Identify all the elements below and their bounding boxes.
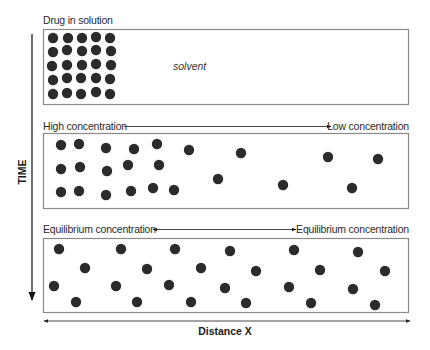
distance-axis-label: Distance X	[198, 325, 252, 337]
low-concentration-label: Low concentration	[327, 120, 409, 132]
molecule-dot	[62, 60, 72, 70]
molecule-dot	[62, 88, 72, 98]
panel-equilibrium: Equilibrium concentration Equilibrium co…	[43, 223, 409, 313]
molecule-dot	[48, 89, 58, 99]
molecule-dot	[91, 59, 101, 69]
panel-drug-in-solution: Drug in solution solvent	[43, 14, 409, 105]
molecule-dot	[154, 160, 164, 170]
molecule-dot	[236, 148, 246, 158]
molecule-dot	[315, 265, 325, 275]
molecule-dot	[63, 33, 73, 43]
molecule-dot	[62, 73, 72, 83]
molecule-dot	[105, 74, 115, 84]
molecule-dot	[91, 32, 101, 42]
molecule-dot	[71, 297, 81, 307]
molecule-dot	[164, 280, 174, 290]
equilibrium-left-label: Equilibrium concentration	[43, 223, 156, 235]
panel-concentration-gradient: High concentration Low concentration	[43, 120, 409, 209]
molecule-dot	[123, 160, 133, 170]
distance-axis: Distance X	[44, 321, 410, 337]
molecule-dot	[74, 139, 84, 149]
diffusion-diagram: TIME Drug in solution solvent High conce…	[0, 0, 430, 350]
molecule-dot	[251, 266, 261, 276]
equilibrium-right-label: Equilibrium concentration	[296, 223, 409, 235]
molecule-dot	[241, 298, 251, 308]
molecule-dot	[101, 143, 111, 153]
molecule-dot	[47, 61, 57, 71]
solvent-label: solvent	[173, 60, 207, 72]
molecule-dot	[48, 47, 58, 57]
molecule-dot	[91, 87, 101, 97]
molecule-dot	[129, 144, 139, 154]
panel-2-box	[44, 134, 409, 209]
molecule-dot	[186, 297, 196, 307]
molecule-dot	[220, 283, 230, 293]
molecule-dot	[77, 46, 87, 56]
molecule-dot	[106, 46, 116, 56]
molecule-dot	[142, 264, 152, 274]
molecule-dot	[373, 154, 383, 164]
molecule-dot	[111, 281, 121, 291]
molecule-dot	[126, 186, 136, 196]
molecule-dot	[106, 60, 116, 70]
molecule-dot	[76, 89, 86, 99]
molecule-dot	[132, 297, 142, 307]
molecule-dot	[225, 246, 235, 256]
molecule-dot	[77, 33, 87, 43]
molecule-dot	[306, 298, 316, 308]
molecule-dot	[74, 186, 84, 196]
molecule-dot	[148, 183, 158, 193]
molecule-dot	[62, 45, 72, 55]
molecule-dot	[169, 185, 179, 195]
molecule-dot	[170, 244, 180, 254]
molecule-dot	[289, 245, 299, 255]
molecule-dot	[75, 162, 85, 172]
molecule-dot	[323, 152, 333, 162]
molecule-dot	[184, 145, 194, 155]
molecule-dot	[101, 190, 111, 200]
molecule-dot	[213, 174, 223, 184]
molecule-dot	[91, 73, 101, 83]
molecule-dot	[77, 60, 87, 70]
molecule-dot	[80, 263, 90, 273]
molecule-dot	[54, 244, 64, 254]
time-axis-label: TIME	[16, 159, 28, 184]
molecule-dot	[91, 45, 101, 55]
molecule-dot	[48, 75, 58, 85]
molecule-dot	[370, 300, 380, 310]
molecule-dot	[56, 140, 66, 150]
molecule-dot	[56, 187, 66, 197]
time-axis: TIME	[16, 34, 32, 300]
molecule-dot	[353, 247, 363, 257]
molecule-dot	[116, 244, 126, 254]
molecule-dot	[347, 183, 357, 193]
molecule-dot	[278, 180, 288, 190]
molecule-dot	[348, 284, 358, 294]
molecule-dot	[380, 266, 390, 276]
high-concentration-label: High concentration	[43, 120, 127, 132]
molecule-dot	[105, 33, 115, 43]
molecule-dot	[102, 166, 112, 176]
molecule-dot	[196, 263, 206, 273]
molecule-dot	[284, 282, 294, 292]
molecule-dot	[49, 281, 59, 291]
molecule-dot	[48, 33, 58, 43]
panel-1-label: Drug in solution	[43, 14, 113, 26]
molecule-dot	[56, 164, 66, 174]
molecule-dot	[76, 73, 86, 83]
molecule-dot	[105, 89, 115, 99]
molecule-dot	[152, 139, 162, 149]
